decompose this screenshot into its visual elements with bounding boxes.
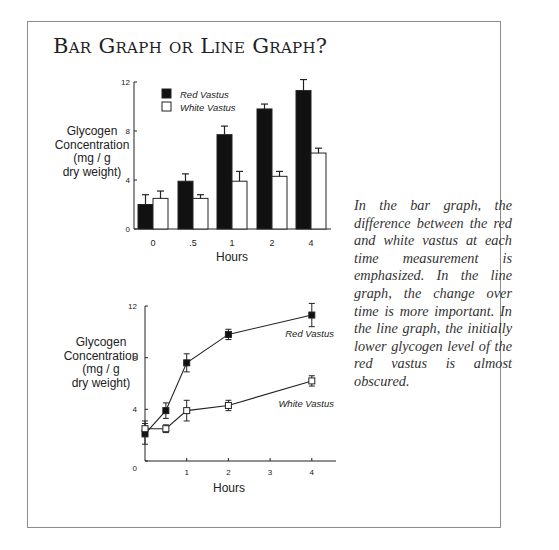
line-chart: 048121234GlycogenConcentration(mg / gdry…	[0, 0, 559, 550]
y-tick-label: 12	[128, 302, 137, 311]
x-tick-label: 3	[268, 468, 273, 477]
series-red-vastus: Red Vastus	[142, 303, 334, 444]
data-point	[309, 312, 315, 318]
y-tick-label: 0	[133, 464, 138, 473]
data-point	[225, 331, 231, 337]
x-tick-label: 1	[184, 468, 189, 477]
y-tick-label: 4	[133, 405, 138, 414]
x-tick-label: 4	[310, 468, 315, 477]
y-axis-label: Glycogen	[76, 335, 127, 349]
data-point	[309, 378, 315, 384]
y-axis-label: dry weight)	[72, 376, 131, 390]
data-point	[142, 426, 148, 432]
x-axis-label: Hours	[213, 481, 245, 495]
data-point	[163, 426, 169, 432]
data-point	[184, 360, 190, 366]
data-point	[225, 402, 231, 408]
series-label: White Vastus	[278, 398, 334, 409]
series-label: Red Vastus	[285, 328, 334, 339]
data-point	[163, 408, 169, 414]
data-point	[184, 408, 190, 414]
y-axis-label: (mg / g	[82, 362, 119, 376]
y-axis-label: Concentration	[64, 349, 139, 363]
x-tick-label: 2	[226, 468, 231, 477]
series-white-vastus: White Vastus	[142, 376, 334, 437]
